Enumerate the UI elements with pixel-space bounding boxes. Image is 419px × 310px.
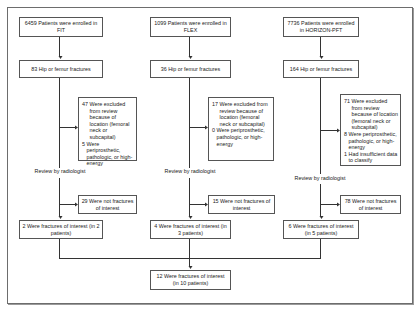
- flex-fractures-text: 36 Hip or femur fractures: [161, 66, 221, 73]
- flex-excluded-box: 17Were excluded from review because of l…: [208, 97, 274, 161]
- flex-not-interest-text: 15 Were not fractures of interest: [211, 198, 272, 211]
- flex-not-interest-box: 15 Were not fractures of interest: [208, 195, 275, 214]
- fit-review-label: Review by radiologist: [35, 168, 86, 175]
- horizon-not-connector: [320, 204, 337, 205]
- fit-excluded-box: 47Were excluded from review because of l…: [78, 97, 137, 161]
- exclusion-count: 47: [82, 101, 88, 141]
- total-stem: [189, 239, 190, 267]
- flex-connector-1: [189, 37, 190, 57]
- arrow-down-icon: [320, 216, 324, 219]
- fit-connector-1: [59, 37, 60, 57]
- arrow-down-icon: [189, 216, 193, 219]
- fit-spine-2: [59, 178, 60, 216]
- exclusion-count: 71: [344, 98, 350, 131]
- fit-not-interest-text: 29 Were not fractures of interest: [81, 198, 134, 211]
- horizon-spine-2: [320, 184, 321, 216]
- exclusion-item: 0Were periprosthetic, pathologic, or hig…: [212, 127, 271, 147]
- exclusion-reason: Were excluded from review because of loc…: [90, 101, 135, 141]
- horizon-interest-box: 6 Were fractures of interest (in 5 patie…: [283, 220, 359, 239]
- horizon-not-interest-text: 78 Were not fractures of interest: [343, 198, 398, 211]
- exclusion-count: 8: [344, 131, 347, 151]
- exclusion-count: 17: [212, 101, 218, 127]
- fit-interest-text: 2 Were fractures of interest (in 2 patie…: [22, 223, 100, 236]
- fit-interest-box: 2 Were fractures of interest (in 2 patie…: [19, 220, 103, 239]
- exclusion-reason: Had insufficient data to classify: [349, 151, 399, 164]
- fit-enrolled-text: 6459 Patients were enrolled in FIT: [22, 20, 100, 33]
- merge-connector: [59, 258, 321, 259]
- exclusion-count: 5: [82, 141, 85, 167]
- flex-enrolled-box: 1099 Patients were enrolled in FLEX: [150, 17, 231, 37]
- horizon-to-total-connector: [320, 239, 321, 258]
- arrow-down-icon: [189, 56, 193, 59]
- arrow-down-icon: [59, 56, 63, 59]
- fit-fractures-text: 83 Hip or femur fractures: [31, 66, 91, 73]
- flex-review-label: Review by radiologist: [165, 168, 216, 175]
- exclusion-item: 8Were periprosthetic, pathologic, or hig…: [344, 131, 398, 151]
- flex-interest-box: 4 Were fractures of interest (in 3 patie…: [150, 220, 231, 239]
- exclusion-item: 1Had insufficient data to classify: [344, 151, 398, 164]
- horizon-connector-1: [320, 37, 321, 57]
- horizon-not-interest-box: 78 Were not fractures of interest: [340, 195, 401, 214]
- flex-spine-2: [189, 178, 190, 216]
- exclusion-reason: Were excluded from review because of loc…: [220, 101, 272, 127]
- fit-fractures-box: 83 Hip or femur fractures: [19, 60, 103, 78]
- horizon-enrolled-text: 7736 Patients were enrolled in HORIZON-P…: [286, 20, 356, 33]
- horizon-review-label: Review by radiologist: [295, 175, 346, 182]
- flex-not-connector: [189, 204, 205, 205]
- horizon-enrolled-box: 7736 Patients were enrolled in HORIZON-P…: [283, 17, 359, 37]
- horizon-spine-1: [320, 78, 321, 174]
- fit-spine-1: [59, 78, 60, 168]
- flex-enrolled-text: 1099 Patients were enrolled in FLEX: [153, 20, 228, 33]
- exclusion-count: 1: [344, 151, 347, 164]
- fit-not-connector: [59, 204, 75, 205]
- arrow-down-icon: [189, 266, 193, 269]
- exclusion-item: 47Were excluded from review because of l…: [82, 101, 134, 141]
- total-interest-text: 12 Were fractures of interest (in 10 pat…: [153, 273, 228, 286]
- horizon-fractures-text: 164 Hip or femur fractures: [290, 66, 353, 73]
- exclusion-reason: Were periprosthetic, pathologic, or high…: [349, 131, 399, 151]
- exclusion-item: 71Were excluded from review because of l…: [344, 98, 398, 131]
- flex-exclusion-connector: [189, 127, 205, 128]
- arrow-down-icon: [59, 216, 63, 219]
- fit-exclusion-connector: [59, 127, 75, 128]
- fit-to-total-connector: [59, 239, 60, 258]
- exclusion-item: 17Were excluded from review because of l…: [212, 101, 271, 127]
- total-interest-box: 12 Were fractures of interest (in 10 pat…: [150, 270, 231, 290]
- exclusion-reason: Were periprosthetic, pathologic, or high…: [87, 141, 135, 167]
- horizon-exclusion-connector: [320, 130, 337, 131]
- horizon-interest-text: 6 Were fractures of interest (in 5 patie…: [286, 223, 356, 236]
- horizon-excluded-box: 71Were excluded from review because of l…: [340, 94, 401, 166]
- arrow-down-icon: [320, 56, 324, 59]
- flex-spine-1: [189, 78, 190, 168]
- exclusion-reason: Were periprosthetic, pathologic, or high…: [217, 127, 272, 147]
- flex-interest-text: 4 Were fractures of interest (in 3 patie…: [153, 223, 228, 236]
- horizon-fractures-box: 164 Hip or femur fractures: [283, 60, 359, 78]
- fit-not-interest-box: 29 Were not fractures of interest: [78, 195, 137, 214]
- flex-fractures-box: 36 Hip or femur fractures: [150, 60, 231, 78]
- exclusion-count: 0: [212, 127, 215, 147]
- exclusion-item: 5Were periprosthetic, pathologic, or hig…: [82, 141, 134, 167]
- fit-enrolled-box: 6459 Patients were enrolled in FIT: [19, 17, 103, 37]
- exclusion-reason: Were excluded from review because of loc…: [352, 98, 399, 131]
